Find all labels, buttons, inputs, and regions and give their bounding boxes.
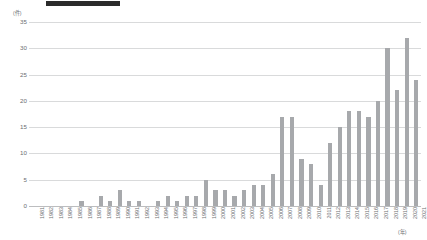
- x-tick-label-2001: 2001: [231, 207, 236, 229]
- y-tick-label-20: 20: [5, 98, 27, 104]
- bar-2013: [338, 127, 342, 206]
- y-tick-label-5: 5: [5, 177, 27, 183]
- bar-2006: [271, 174, 275, 206]
- x-tick-label-2019: 2019: [403, 207, 408, 229]
- y-axis-unit-label: (件): [13, 9, 21, 16]
- x-tick-label-2008: 2008: [298, 207, 303, 229]
- bar-1998: [194, 196, 198, 207]
- bar-chart: title-redacted (件) 05101520253035 198119…: [0, 0, 427, 240]
- bar-1989: [108, 201, 112, 206]
- x-tick-label-1983: 1983: [59, 207, 64, 229]
- bar-1996: [175, 201, 179, 206]
- bar-2008: [290, 117, 294, 206]
- bar-1999: [204, 180, 208, 206]
- bar-2019: [395, 90, 399, 206]
- bar-2009: [299, 159, 303, 206]
- bar-1990: [118, 190, 122, 206]
- x-tick-label-2014: 2014: [355, 207, 360, 229]
- bar-1997: [185, 196, 189, 207]
- x-tick-label-1990: 1990: [126, 207, 131, 229]
- y-tick-label-30: 30: [5, 45, 27, 51]
- bar-2000: [213, 190, 217, 206]
- x-tick-label-2021: 2021: [422, 207, 427, 229]
- bar-2017: [376, 101, 380, 206]
- plot-area: [29, 22, 421, 206]
- x-tick-label-2018: 2018: [394, 207, 399, 229]
- x-tick-label-1988: 1988: [107, 207, 112, 229]
- bar-1994: [156, 201, 160, 206]
- bar-2011: [319, 185, 323, 206]
- bar-2015: [357, 111, 361, 206]
- bar-2007: [280, 117, 284, 206]
- bar-1995: [166, 196, 170, 207]
- bar-2001: [223, 190, 227, 206]
- x-tick-label-2009: 2009: [307, 207, 312, 229]
- x-tick-label-2007: 2007: [288, 207, 293, 229]
- bar-1988: [99, 196, 103, 207]
- x-tick-label-2016: 2016: [374, 207, 379, 229]
- y-axis-tick-labels: 05101520253035: [3, 22, 27, 206]
- y-tick-label-35: 35: [5, 19, 27, 25]
- x-tick-label-2010: 2010: [317, 207, 322, 229]
- x-tick-label-2017: 2017: [384, 207, 389, 229]
- bar-1991: [127, 201, 131, 206]
- x-tick-label-1985: 1985: [78, 207, 83, 229]
- x-tick-label-2020: 2020: [413, 207, 418, 229]
- bar-2004: [252, 185, 256, 206]
- x-tick-label-1981: 1981: [40, 207, 45, 229]
- x-tick-label-2006: 2006: [279, 207, 284, 229]
- bar-2016: [366, 117, 370, 206]
- x-tick-label-1991: 1991: [135, 207, 140, 229]
- y-tick-label-0: 0: [5, 203, 27, 209]
- x-tick-label-1998: 1998: [202, 207, 207, 229]
- x-tick-label-2004: 2004: [260, 207, 265, 229]
- x-tick-label-1993: 1993: [155, 207, 160, 229]
- bar-1986: [79, 201, 83, 206]
- x-tick-label-1997: 1997: [193, 207, 198, 229]
- bar-2003: [242, 190, 246, 206]
- x-tick-label-1992: 1992: [145, 207, 150, 229]
- redacted-title-bar: title-redacted: [46, 1, 120, 6]
- x-tick-label-1996: 1996: [183, 207, 188, 229]
- x-tick-label-1999: 1999: [212, 207, 217, 229]
- bar-2005: [261, 185, 265, 206]
- y-tick-label-15: 15: [5, 124, 27, 130]
- bar-2010: [309, 164, 313, 206]
- bar-series: [29, 22, 421, 206]
- bar-2012: [328, 143, 332, 206]
- y-tick-label-25: 25: [5, 72, 27, 78]
- bar-1992: [137, 201, 141, 206]
- x-tick-label-1994: 1994: [164, 207, 169, 229]
- x-tick-label-2000: 2000: [221, 207, 226, 229]
- x-tick-label-2012: 2012: [336, 207, 341, 229]
- x-tick-label-2002: 2002: [241, 207, 246, 229]
- x-axis-tick-labels: 1981198219831984198519861987198819891990…: [29, 207, 421, 231]
- x-tick-label-2005: 2005: [269, 207, 274, 229]
- bar-2021: [414, 80, 418, 206]
- x-axis-unit-label: (年): [398, 228, 406, 235]
- y-tick-label-10: 10: [5, 150, 27, 156]
- bar-2002: [232, 196, 236, 207]
- x-tick-label-1984: 1984: [68, 207, 73, 229]
- x-tick-label-1982: 1982: [49, 207, 54, 229]
- x-tick-label-1987: 1987: [97, 207, 102, 229]
- bar-2020: [405, 38, 409, 206]
- x-tick-label-2015: 2015: [365, 207, 370, 229]
- x-tick-label-1986: 1986: [88, 207, 93, 229]
- x-tick-label-2003: 2003: [250, 207, 255, 229]
- x-tick-label-1989: 1989: [116, 207, 121, 229]
- bar-2018: [385, 48, 389, 206]
- x-tick-label-1995: 1995: [174, 207, 179, 229]
- x-tick-label-2011: 2011: [327, 207, 332, 229]
- bar-2014: [347, 111, 351, 206]
- x-tick-label-2013: 2013: [346, 207, 351, 229]
